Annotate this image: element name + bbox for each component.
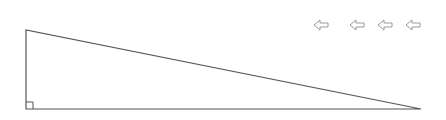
right-angle-marker — [26, 102, 33, 109]
left-arrow-icon — [405, 19, 422, 31]
left-arrow-icon — [349, 19, 366, 31]
back-arrow-button-3[interactable] — [377, 19, 394, 31]
triangle — [26, 30, 421, 109]
back-arrow-button-1[interactable] — [313, 19, 330, 31]
left-arrow-icon — [313, 19, 330, 31]
right-triangle-diagram — [0, 0, 446, 120]
back-arrow-button-2[interactable] — [349, 19, 366, 31]
left-arrow-icon — [377, 19, 394, 31]
back-arrow-button-4[interactable] — [405, 19, 422, 31]
